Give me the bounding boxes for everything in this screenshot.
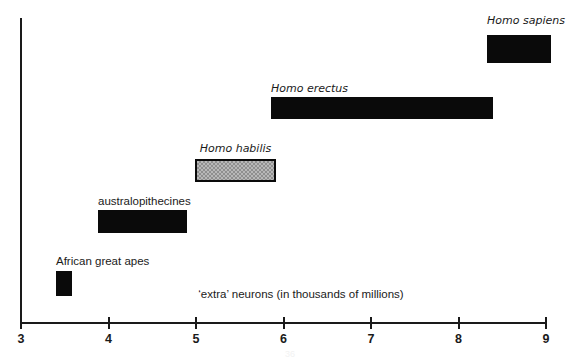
x-tick-label-6: 6 xyxy=(269,332,299,346)
bar-homo-habilis xyxy=(195,159,276,182)
x-tick-label-3: 3 xyxy=(6,332,36,346)
bar-african-great-apes xyxy=(56,271,72,296)
x-tick-4 xyxy=(108,317,110,329)
page-number: 36 xyxy=(0,349,580,357)
bar-label-african-great-apes: African great apes xyxy=(56,255,149,267)
x-tick-6 xyxy=(283,317,285,329)
x-axis-title: ‘extra’ neurons (in thousands of million… xyxy=(0,288,580,300)
bar-australopithecines xyxy=(98,210,187,233)
x-tick-label-5: 5 xyxy=(181,332,211,346)
bar-homo-erectus xyxy=(271,97,493,119)
bar-homo-sapiens xyxy=(487,35,551,63)
y-axis-line xyxy=(20,18,22,324)
x-tick-3 xyxy=(20,317,22,329)
x-tick-label-7: 7 xyxy=(356,332,386,346)
x-tick-9 xyxy=(545,317,547,329)
x-tick-label-4: 4 xyxy=(94,332,124,346)
x-tick-8 xyxy=(458,317,460,329)
x-tick-5 xyxy=(195,317,197,329)
x-tick-label-8: 8 xyxy=(444,332,474,346)
bar-label-homo-sapiens: Homo sapiens xyxy=(487,14,551,27)
bar-label-australopithecines: australopithecines xyxy=(98,195,191,207)
chart-figure: 3456789 ‘extra’ neurons (in thousands of… xyxy=(0,0,580,357)
bar-label-homo-erectus: Homo erectus xyxy=(271,82,348,95)
x-tick-label-9: 9 xyxy=(531,332,561,346)
x-tick-7 xyxy=(370,317,372,329)
bar-label-homo-habilis: Homo habilis xyxy=(195,142,276,155)
